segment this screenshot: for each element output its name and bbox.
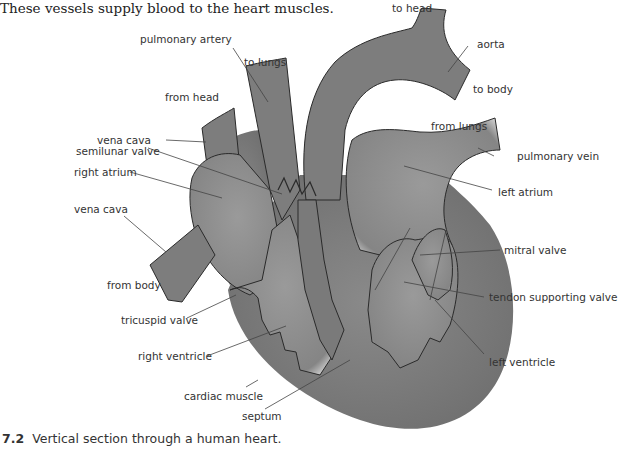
label-to-lungs: to lungs [244, 56, 286, 68]
label-pulmonary-artery: pulmonary artery [140, 33, 232, 45]
label-from-lungs: from lungs [431, 120, 487, 132]
label-cardiac-muscle: cardiac muscle [184, 390, 263, 402]
label-vena-cava-lower: vena cava [74, 203, 128, 215]
label-left-atrium: left atrium [498, 186, 553, 198]
heart-diagram [0, 0, 620, 458]
label-mitral-valve: mitral valve [504, 244, 567, 256]
label-aorta: aorta [477, 38, 505, 50]
label-from-body: from body [107, 279, 161, 291]
figure-caption-text: Vertical section through a human heart. [32, 431, 281, 446]
label-tricuspid-valve: tricuspid valve [121, 314, 198, 326]
figure-caption: 7.2Vertical section through a human hear… [2, 431, 282, 446]
label-tendon-supporting-valve: tendon supporting valve [489, 291, 617, 303]
label-to-body: to body [473, 83, 513, 95]
label-right-ventricle: right ventricle [138, 350, 212, 362]
label-right-atrium: right atrium [74, 166, 137, 178]
label-pulmonary-vein: pulmonary vein [517, 150, 599, 162]
label-left-ventricle: left ventricle [489, 356, 555, 368]
figure-number: 7.2 [2, 431, 24, 446]
label-septum: septum [242, 410, 282, 422]
label-from-head: from head [165, 91, 219, 103]
label-semilunar-valve: semilunar valve [76, 145, 160, 157]
label-to-head: to head [392, 2, 432, 14]
